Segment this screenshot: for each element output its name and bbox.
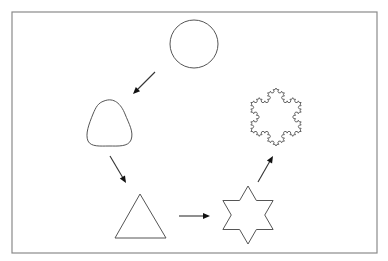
diagram-frame: [12, 12, 377, 253]
arrow-head-icon: [267, 156, 273, 164]
arrow-hexagram-to-koch-snowflake: [258, 156, 273, 182]
arrow-head-icon: [203, 213, 210, 219]
arrow-circle-to-rounded-triangle: [133, 72, 155, 94]
arrow-rounded-triangle-to-triangle: [110, 156, 126, 183]
arrow-triangle-to-hexagram: [179, 213, 210, 219]
hexagram-shape: [223, 186, 273, 244]
rounded-triangle-shape: [87, 100, 132, 146]
koch-snowflake-shape: [251, 88, 301, 146]
diagram-canvas: Shape transformation sequence: circle to…: [0, 0, 388, 261]
arrow-shaft: [137, 72, 155, 90]
circle-shape: [170, 20, 218, 68]
arrow-shaft: [258, 161, 270, 182]
arrow-head-icon: [120, 175, 126, 183]
triangle-shape: [115, 194, 166, 238]
arrow-shaft: [110, 156, 123, 178]
